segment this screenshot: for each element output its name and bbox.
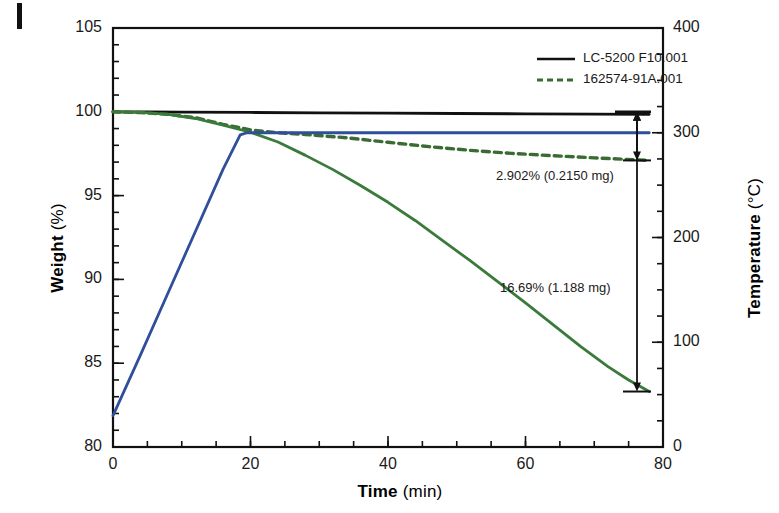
plot-frame <box>113 28 663 447</box>
annotation-label: 16.69% (1.188 mg) <box>500 280 611 295</box>
x-axis-title-unit: (min) <box>403 482 443 501</box>
series-line <box>113 112 649 115</box>
y-axis-left-tick-label: 80 <box>56 437 102 455</box>
y-axis-right-title-unit: (°C) <box>745 178 764 209</box>
y-axis-right-tick-label: 200 <box>673 228 723 246</box>
tga-chart-figure: Weight (%) Temperature (°C) Time (min) 8… <box>0 0 779 513</box>
x-axis-title: Time (min) <box>300 482 500 502</box>
y-axis-right-title-main: Temperature <box>745 214 764 318</box>
y-axis-right-title: Temperature (°C) <box>745 118 765 378</box>
x-axis-tick-label: 0 <box>90 455 136 473</box>
y-axis-left-tick-label: 85 <box>56 353 102 371</box>
x-axis-tick-label: 20 <box>228 455 274 473</box>
legend-item-label: LC-5200 F10.001 <box>583 50 688 65</box>
legend-item-label: 162574-91A.001 <box>583 71 683 86</box>
x-axis-title-main: Time <box>358 482 398 501</box>
y-axis-left-title-unit: (%) <box>48 203 67 230</box>
y-axis-right-tick-label: 400 <box>673 18 723 36</box>
y-axis-right-tick-label: 300 <box>673 123 723 141</box>
y-axis-left-tick-label: 105 <box>56 18 102 36</box>
y-axis-right-tick-label: 100 <box>673 332 723 350</box>
y-axis-left-tick-label: 100 <box>56 102 102 120</box>
x-axis-tick-label: 80 <box>640 455 686 473</box>
annotation-label: 2.902% (0.2150 mg) <box>496 168 614 183</box>
y-axis-left-tick-label: 90 <box>56 269 102 287</box>
y-axis-left-tick-label: 95 <box>56 186 102 204</box>
x-axis-tick-label: 40 <box>365 455 411 473</box>
x-axis-tick-label: 60 <box>503 455 549 473</box>
y-axis-right-tick-label: 0 <box>673 437 723 455</box>
series-line <box>113 112 649 392</box>
